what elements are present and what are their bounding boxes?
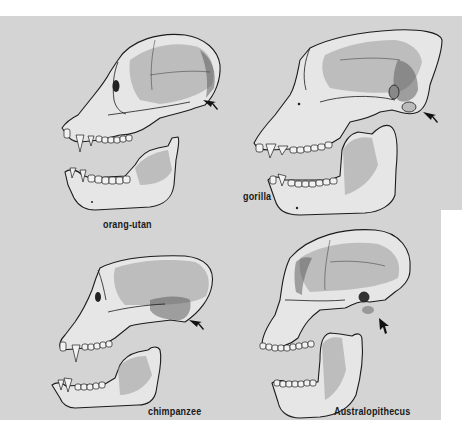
label-australopithecus: Australopithecus xyxy=(334,406,410,417)
gorilla-skull xyxy=(254,30,442,215)
label-chimpanzee: chimpanzee xyxy=(148,406,201,417)
orang-utan-skull xyxy=(62,34,220,210)
australopithecus-skull xyxy=(260,230,410,418)
label-orang-utan: orang-utan xyxy=(103,219,152,230)
gorilla-arrow-icon xyxy=(423,112,438,123)
chimpanzee-arrow-icon xyxy=(189,320,204,330)
label-gorilla: gorilla xyxy=(243,191,271,202)
skull-illustrations xyxy=(0,0,462,435)
australopithecus-arrow-icon xyxy=(379,318,389,334)
chimpanzee-skull xyxy=(52,256,213,408)
